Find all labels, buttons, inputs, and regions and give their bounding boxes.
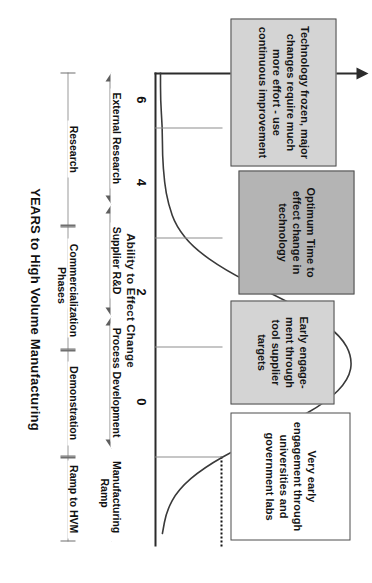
phase-band-manufacturing-ramp: Manufacturing Ramp: [100, 448, 120, 541]
phase-band-process-development: Process Development: [100, 316, 120, 448]
commercialization-band-research: Research: [58, 72, 76, 226]
callout-text: Optimum Time to effect change in technol…: [275, 176, 317, 288]
tick-mark-6: [154, 127, 222, 128]
cband-label: Commercialization Phases: [55, 226, 79, 349]
tick-mark-2: [154, 346, 222, 347]
commercialization-band-ramp-to-hvm: Ramp to HVM: [58, 456, 76, 541]
band-label: Process Development: [110, 316, 122, 448]
callout-technology-frozen: Technology frozen, major changes require…: [230, 18, 336, 166]
band-label: Supplier R&D: [110, 204, 122, 317]
callout-very-early-engagement: Very early engagement through universiti…: [230, 412, 350, 540]
tick-mark-0: [154, 456, 222, 457]
cband-label: Ramp to HVM: [67, 456, 79, 541]
rotated-figure-wrapper: 6420 External ResearchSupplier R&DProces…: [0, 0, 372, 583]
phase-band-supplier-r-d: Supplier R&D: [100, 204, 120, 317]
commercialization-band-commercialization-phases: Commercialization Phases: [58, 226, 76, 349]
chart-figure: 6420 External ResearchSupplier R&DProces…: [0, 0, 372, 583]
tick-mark-4: [154, 237, 222, 238]
tick-label-6: 6: [133, 96, 148, 103]
commercialization-band-demonstration: Demonstration: [58, 349, 76, 456]
callout-text: Very early engagement through universiti…: [262, 418, 318, 534]
cband-label: Demonstration: [67, 349, 79, 456]
callout-text: Technology frozen, major changes require…: [255, 24, 311, 160]
phase-band-external-research: External Research: [100, 72, 120, 204]
y-axis-title: Ability to Effect Change: [124, 150, 136, 450]
callout-text: Early engage-ment through tool supplier …: [254, 306, 310, 398]
band-label: External Research: [110, 72, 122, 204]
cband-label: Research: [67, 72, 79, 226]
zero-year-reference-line: [220, 456, 222, 546]
callout-early-engagement: Early engage-ment through tool supplier …: [230, 300, 334, 404]
band-label: Manufacturing Ramp: [98, 448, 122, 541]
x-axis-title: YEARS to High Volume Manufacturing: [27, 72, 42, 546]
callout-optimum-time: Optimum Time to effect change in technol…: [238, 170, 354, 294]
